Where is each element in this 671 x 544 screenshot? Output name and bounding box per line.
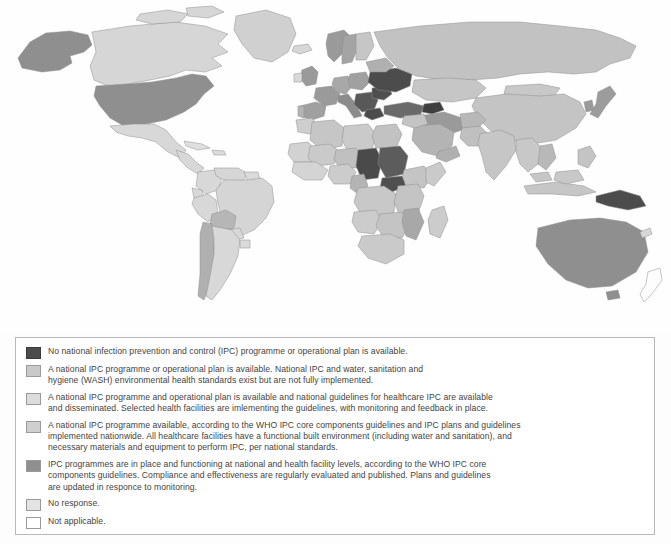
legend-line: and disseminated. Selected health facili… [48,403,493,414]
country-papua-new-guinea [596,190,646,210]
country-alaska [18,31,92,72]
country-sweden [342,34,358,64]
legend-swatch-nationwide-implementation [26,421,41,433]
country-indonesia [524,182,596,196]
country-egypt [372,124,402,148]
country-russia [374,22,636,80]
country-libya [342,124,376,152]
legend-swatch-no-programme [26,347,41,359]
country-madagascar [428,206,448,238]
legend-swatch-functioning-programmes [26,460,41,472]
country-borneo [554,170,584,184]
legend-item-nationwide-implementation: A national IPC programme available, acco… [26,420,644,454]
country-australia [536,218,648,288]
country-greenland [234,10,296,62]
country-somalia [426,162,446,186]
legend-swatch-no-response [26,499,41,511]
country-finland [356,32,374,60]
country-kazakhstan [412,78,486,102]
legend-line: are updated in responce to monitoring. [48,482,491,493]
legend-line: IPC programmes are in place and function… [48,459,491,470]
country-canada-arctic-1 [136,10,188,24]
legend-swatch-guidelines-disseminated [26,393,41,405]
country-japan [590,86,616,118]
country-philippines [578,146,596,168]
legend-label-not-applicable: Not applicable. [48,516,106,527]
legend-item-functioning-programmes: IPC programmes are in place and function… [26,459,644,493]
map-figure: No national infection prevention and con… [0,0,671,544]
legend-label-functioning-programmes: IPC programmes are in place and function… [48,459,491,493]
country-south-africa [358,234,404,264]
country-uruguay [240,240,250,248]
legend-item-no-response: No response. [26,498,644,511]
legend-item-plan-available: A national IPC programme or operational … [26,364,644,387]
country-hispaniola [212,150,226,155]
legend-label-no-response: No response. [48,498,100,509]
legend-line: A national IPC programme or operational … [48,364,423,375]
country-new-zealand [640,268,662,302]
country-tasmania [606,290,620,300]
country-new-caledonia [640,228,652,238]
legend-line: implemented nationwide. All healthcare f… [48,431,521,442]
legend-item-not-applicable: Not applicable. [26,516,644,529]
legend-item-no-programme: No national infection prevention and con… [26,346,644,359]
country-greece [364,108,384,120]
legend-line: No response. [48,498,100,509]
country-ireland [294,73,302,82]
legend-line: A national IPC programme available, acco… [48,420,521,431]
country-poland [348,72,370,90]
legend-line: necessary materials and equipment to per… [48,442,521,453]
legend-line: A national IPC programme and operational… [48,392,493,403]
country-malaysia [530,172,552,182]
legend-label-nationwide-implementation: A national IPC programme available, acco… [48,420,521,454]
legend-swatch-plan-available [26,365,41,377]
country-korea [584,100,594,112]
country-central-america [176,150,204,174]
legend-label-guidelines-disseminated: A national IPC programme and operational… [48,392,493,415]
country-cuba [184,141,210,150]
country-canada-arctic-2 [186,6,224,18]
legend-line: Not applicable. [48,516,106,527]
legend-label-no-programme: No national infection prevention and con… [48,346,408,357]
world-map-svg [0,0,671,332]
country-india [478,130,516,180]
country-mexico [110,124,186,158]
country-portugal [298,106,304,118]
legend-item-guidelines-disseminated: A national IPC programme and operational… [26,392,644,415]
country-vietnam [538,144,556,170]
legend-line: components guidelines. Compliance and ef… [48,470,491,481]
country-united-kingdom [300,66,318,86]
world-map [0,0,671,332]
map-legend: No national infection prevention and con… [15,337,655,535]
country-caucasus [422,102,444,114]
country-iceland [292,44,312,54]
legend-swatch-not-applicable [26,517,41,529]
legend-line: No national infection prevention and con… [48,346,408,357]
country-mozambique [402,208,424,240]
country-canada [90,22,228,86]
legend-line: hygiene (WASH) environmental health stan… [48,375,423,386]
legend-label-plan-available: A national IPC programme or operational … [48,364,423,387]
